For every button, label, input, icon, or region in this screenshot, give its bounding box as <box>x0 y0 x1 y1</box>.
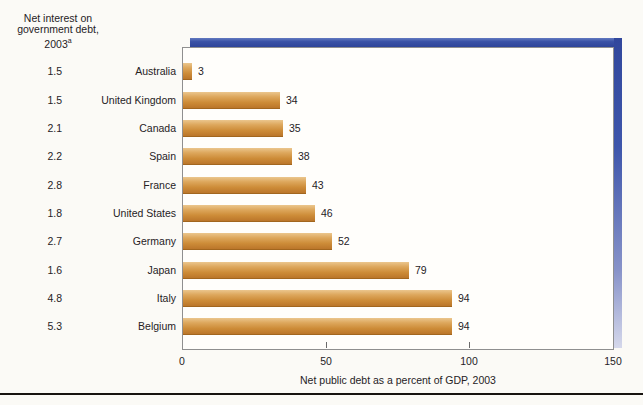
bar-value-label: 35 <box>289 120 301 137</box>
bar-value-label: 3 <box>198 63 204 80</box>
chart-row-germany: 2.7 Germany 52 <box>0 233 643 250</box>
net-interest-value: 1.6 <box>18 262 62 279</box>
net-interest-value: 1.5 <box>18 92 62 109</box>
bar-value-label: 43 <box>312 177 324 194</box>
debt-bar <box>183 177 306 194</box>
debt-bar <box>183 92 280 109</box>
top-accent-bar <box>190 38 622 47</box>
bar-value-label: 38 <box>298 148 310 165</box>
x-tick-label-0: 0 <box>162 355 202 367</box>
country-label: Spain <box>62 148 176 165</box>
x-tick-50 <box>326 342 327 348</box>
x-tick-label-100: 100 <box>449 355 489 367</box>
chart-row-spain: 2.2 Spain 38 <box>0 148 643 165</box>
country-label: United Kingdom <box>62 92 176 109</box>
debt-bar <box>183 63 192 80</box>
x-axis-label: Net public debt as a percent of GDP, 200… <box>183 374 613 386</box>
debt-bar <box>183 233 332 250</box>
debt-bar <box>183 290 452 307</box>
country-label: United States <box>62 205 176 222</box>
debt-bar <box>183 120 283 137</box>
heading-superscript: a <box>68 37 72 44</box>
net-interest-value: 2.2 <box>18 148 62 165</box>
bar-value-label: 52 <box>338 233 350 250</box>
chart-row-canada: 2.1 Canada 35 <box>0 120 643 137</box>
x-tick-100 <box>469 342 470 348</box>
country-label: Canada <box>62 120 176 137</box>
net-interest-value: 4.8 <box>18 290 62 307</box>
debt-bar <box>183 205 315 222</box>
chart-row-belgium: 5.3 Belgium 94 <box>0 318 643 335</box>
bottom-rule <box>0 393 643 395</box>
net-interest-value: 1.8 <box>18 205 62 222</box>
net-interest-value: 2.8 <box>18 177 62 194</box>
left-column-heading: Net interest on government debt, 2003a <box>6 13 110 50</box>
net-interest-value: 2.7 <box>18 233 62 250</box>
country-label: Germany <box>62 233 176 250</box>
net-interest-value: 2.1 <box>18 120 62 137</box>
bar-value-label: 94 <box>458 318 470 335</box>
bar-value-label: 79 <box>415 262 427 279</box>
net-interest-value: 1.5 <box>18 63 62 80</box>
heading-line-2: government debt, <box>6 24 110 35</box>
country-label: Italy <box>62 290 176 307</box>
chart-row-united-states: 1.8 United States 46 <box>0 205 643 222</box>
bar-value-label: 46 <box>321 205 333 222</box>
chart-row-japan: 1.6 Japan 79 <box>0 262 643 279</box>
chart-row-australia: 1.5 Australia 3 <box>0 63 643 80</box>
net-interest-value: 5.3 <box>18 318 62 335</box>
bar-value-label: 34 <box>286 92 298 109</box>
x-tick-label-150: 150 <box>593 355 633 367</box>
x-tick-label-50: 50 <box>306 355 346 367</box>
country-label: Australia <box>62 63 176 80</box>
chart-row-france: 2.8 France 43 <box>0 177 643 194</box>
country-label: France <box>62 177 176 194</box>
bar-value-label: 94 <box>458 290 470 307</box>
chart-row-united-kingdom: 1.5 United Kingdom 34 <box>0 92 643 109</box>
debt-bar <box>183 262 409 279</box>
bar-chart-figure: Net interest on government debt, 2003a 1… <box>0 0 643 405</box>
country-label: Belgium <box>62 318 176 335</box>
country-label: Japan <box>62 262 176 279</box>
chart-row-italy: 4.8 Italy 94 <box>0 290 643 307</box>
heading-line-3: 2003a <box>6 35 110 50</box>
debt-bar <box>183 318 452 335</box>
debt-bar <box>183 148 292 165</box>
